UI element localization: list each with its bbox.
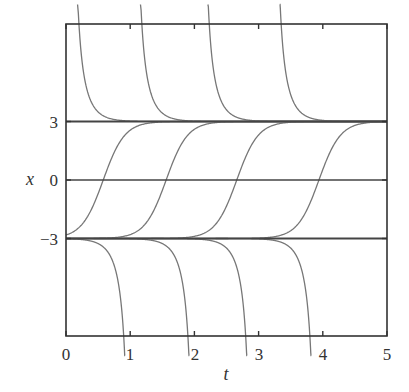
y-tick-0: 0 — [50, 171, 59, 190]
solution-curve — [208, 5, 387, 122]
x-tick-0: 0 — [62, 345, 71, 364]
x-axis-label: t — [223, 364, 229, 384]
x-tick-5: 5 — [383, 345, 392, 364]
solution-curve — [280, 5, 387, 122]
phase-line-chart: 0 1 2 3 4 5 3 0 −3 t x — [0, 0, 409, 392]
equilibrium-lines — [66, 122, 387, 239]
y-tick-3: 3 — [50, 113, 59, 132]
solution-curve — [94, 239, 190, 356]
solution-curve — [216, 239, 312, 356]
solution-curve — [151, 239, 247, 356]
x-tick-1: 1 — [126, 345, 135, 364]
solution-curve — [66, 122, 387, 236]
x-tick-3: 3 — [255, 345, 264, 364]
x-tick-2: 2 — [191, 345, 200, 364]
solution-curve — [78, 5, 387, 122]
y-tick-neg3: −3 — [40, 230, 58, 249]
solution-curve — [140, 5, 387, 122]
y-axis-label: x — [25, 169, 34, 189]
x-tick-4: 4 — [319, 345, 328, 364]
solution-curve — [66, 239, 125, 356]
